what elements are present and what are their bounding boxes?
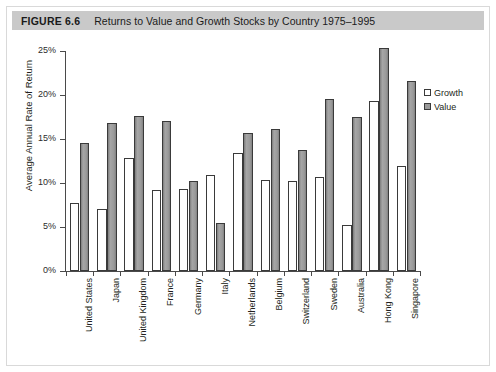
y-axis-tick-label: 0% [22, 266, 56, 275]
y-axis-tick [60, 95, 65, 96]
x-axis-tick [175, 272, 176, 276]
bar-growth-hong-kong[interactable] [369, 101, 378, 271]
x-axis-label-france: France [165, 278, 175, 306]
legend-swatch-value-icon [424, 103, 431, 110]
bar-value-sweden[interactable] [325, 99, 334, 271]
bar-value-hong-kong[interactable] [379, 48, 388, 271]
x-axis-tick [257, 272, 258, 276]
x-axis-label-hong-kong: Hong Kong [383, 278, 393, 323]
x-axis-tick [366, 272, 367, 276]
y-axis-tick [60, 139, 65, 140]
x-axis-label-netherlands: Netherlands [247, 278, 257, 327]
bar-value-france[interactable] [162, 121, 171, 271]
bar-growth-switzerland[interactable] [288, 181, 297, 271]
y-axis-tick-label: 5% [22, 222, 56, 231]
x-axis-tick [311, 272, 312, 276]
x-axis-tick [284, 272, 285, 276]
bar-growth-italy[interactable] [206, 175, 215, 271]
x-axis-tick [66, 272, 67, 276]
x-axis-label-united-kingdom: United Kingdom [138, 278, 148, 342]
bar-growth-japan[interactable] [97, 209, 106, 271]
x-axis-tick [338, 272, 339, 276]
y-axis-tick [60, 227, 65, 228]
x-axis-label-switzerland: Switzerland [301, 278, 311, 325]
chart-legend: Growth Value [424, 86, 486, 114]
bar-growth-australia[interactable] [342, 225, 351, 271]
x-axis-label-germany: Germany [193, 278, 203, 315]
x-axis-tick [202, 272, 203, 276]
legend-item-value[interactable]: Value [424, 100, 486, 113]
x-axis-line [65, 271, 421, 272]
x-axis-label-japan: Japan [111, 278, 121, 303]
legend-label-value: Value [434, 102, 456, 112]
bar-growth-germany[interactable] [179, 189, 188, 271]
bar-value-australia[interactable] [352, 117, 361, 271]
bar-growth-sweden[interactable] [315, 177, 324, 271]
x-axis-label-italy: Italy [220, 278, 230, 295]
x-axis-tick [120, 272, 121, 276]
bar-value-germany[interactable] [189, 181, 198, 271]
x-axis-label-sweden: Sweden [329, 278, 339, 311]
x-axis-tick [393, 272, 394, 276]
bar-growth-united-kingdom[interactable] [124, 158, 133, 271]
bar-growth-united-states[interactable] [70, 203, 79, 271]
y-axis-line [65, 51, 66, 272]
bar-value-united-states[interactable] [80, 143, 89, 271]
y-axis-tick [60, 183, 65, 184]
x-axis-label-united-states: United States [84, 278, 94, 332]
x-axis-tick [420, 272, 421, 276]
legend-swatch-growth-icon [424, 89, 431, 96]
bar-value-netherlands[interactable] [243, 133, 252, 271]
bar-chart: 0%5%10%15%20%25% Average Annual Rate of … [0, 0, 496, 372]
x-axis-tick [148, 272, 149, 276]
bar-growth-netherlands[interactable] [233, 153, 242, 271]
bar-value-singapore[interactable] [407, 81, 416, 271]
x-axis-label-singapore: Singapore [410, 278, 420, 319]
bar-value-italy[interactable] [216, 223, 225, 271]
y-axis-tick [60, 51, 65, 52]
bar-value-united-kingdom[interactable] [134, 116, 143, 271]
bar-growth-france[interactable] [152, 190, 161, 271]
bar-value-japan[interactable] [107, 123, 116, 271]
bar-growth-belgium[interactable] [261, 180, 270, 271]
bar-growth-singapore[interactable] [397, 166, 406, 271]
x-axis-label-belgium: Belgium [274, 278, 284, 311]
y-axis-title: Average Annual Rate of Return [23, 46, 34, 206]
x-axis-tick [93, 272, 94, 276]
y-axis-tick [60, 271, 65, 272]
legend-label-growth: Growth [434, 88, 463, 98]
x-axis-label-australia: Australia [356, 278, 366, 313]
legend-item-growth[interactable]: Growth [424, 86, 486, 99]
bar-value-belgium[interactable] [271, 129, 280, 271]
bar-value-switzerland[interactable] [298, 150, 307, 271]
x-axis-tick [229, 272, 230, 276]
